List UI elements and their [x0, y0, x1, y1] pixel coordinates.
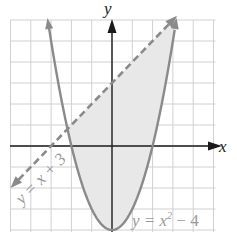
parabola-label-base: y = x [130, 211, 168, 230]
shaded-region [67, 16, 176, 230]
parabola-equation-label: y = x2 − 4 [130, 210, 199, 230]
y-axis-label: y [102, 0, 112, 18]
y-axis-arrow-icon [108, 19, 117, 33]
parabola-label-tail: − 4 [172, 211, 199, 230]
x-axis-label: x [218, 137, 227, 156]
graph-canvas: y x y = x + 3 y = x2 − 4 [0, 0, 237, 243]
